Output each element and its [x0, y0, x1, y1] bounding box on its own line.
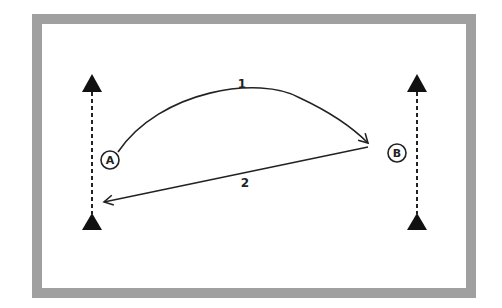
path-1-curve [118, 88, 368, 152]
node-a: A [101, 151, 119, 169]
node-a-label: A [106, 154, 115, 167]
right-bottom-cone-icon [407, 213, 427, 230]
node-b: B [388, 144, 406, 162]
node-b-label: B [393, 147, 401, 160]
path-2-label: 2 [241, 176, 249, 190]
left-top-cone-icon [82, 74, 102, 92]
path-1-label: 1 [238, 77, 246, 91]
drill-diagram: 1 2 A B [0, 0, 502, 308]
right-top-cone-icon [407, 74, 427, 92]
path-2-line [104, 147, 368, 202]
left-bottom-cone-icon [82, 213, 102, 230]
